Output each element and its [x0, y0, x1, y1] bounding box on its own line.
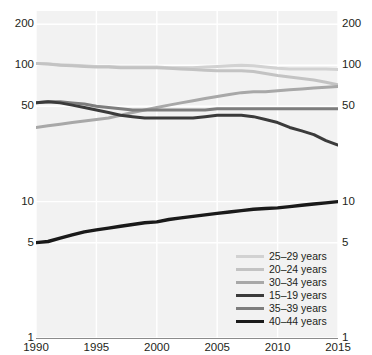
legend-swatch-icon [236, 268, 264, 271]
y-tick-label-left: 200 [4, 18, 34, 30]
legend-item-label: 25–29 years [269, 251, 327, 262]
y-tick-label-left: 100 [4, 59, 34, 71]
legend-item-label: 35–39 years [269, 303, 327, 314]
x-tick-label: 2010 [255, 342, 301, 354]
legend-item[interactable]: 35–39 years [236, 302, 352, 315]
y-tick-label-right: 10 [342, 196, 372, 208]
legend-swatch-icon [236, 294, 264, 297]
legend-swatch-icon [236, 255, 264, 258]
legend-item[interactable]: 20–24 years [236, 263, 352, 276]
y-tick-label-right: 100 [342, 59, 372, 71]
legend-swatch-icon [236, 320, 264, 323]
x-tick-label: 2000 [134, 342, 180, 354]
legend-item[interactable]: 40–44 years [236, 315, 352, 328]
legend-item-label: 30–34 years [269, 277, 327, 288]
legend: 25–29 years20–24 years30–34 years15–19 y… [236, 250, 352, 328]
y-tick-label-left: 50 [4, 100, 34, 112]
x-axis-line [36, 338, 338, 339]
legend-item[interactable]: 15–19 years [236, 289, 352, 302]
y-tick-label-left: 10 [4, 196, 34, 208]
legend-item[interactable]: 30–34 years [236, 276, 352, 289]
legend-item-label: 15–19 years [269, 290, 327, 301]
legend-item-label: 40–44 years [269, 316, 327, 327]
y-tick-label-right: 5 [342, 237, 372, 249]
legend-swatch-icon [236, 281, 264, 284]
legend-swatch-icon [236, 307, 264, 310]
y-tick-label-right: 200 [342, 18, 372, 30]
y-tick-label-left: 5 [4, 237, 34, 249]
y-tick-label-right: 50 [342, 100, 372, 112]
x-tick-label: 2015 [315, 342, 361, 354]
x-tick-label: 1990 [13, 342, 59, 354]
x-tick-label: 2005 [194, 342, 240, 354]
series-line-40-44 [36, 202, 338, 243]
legend-item[interactable]: 25–29 years [236, 250, 352, 263]
legend-item-label: 20–24 years [269, 264, 327, 275]
chart-root: 200100501051 200100501051 19901995200020… [0, 0, 372, 355]
x-tick-label: 1995 [73, 342, 119, 354]
